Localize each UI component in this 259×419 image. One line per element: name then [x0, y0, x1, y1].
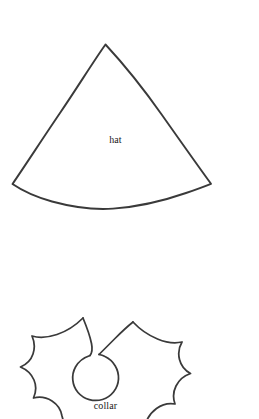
pattern-sheet: hat collar	[0, 0, 259, 419]
hat-label: hat	[0, 134, 245, 145]
hat-shape	[13, 45, 212, 209]
collar-label: collar	[0, 400, 235, 411]
pattern-drawing	[0, 0, 259, 419]
